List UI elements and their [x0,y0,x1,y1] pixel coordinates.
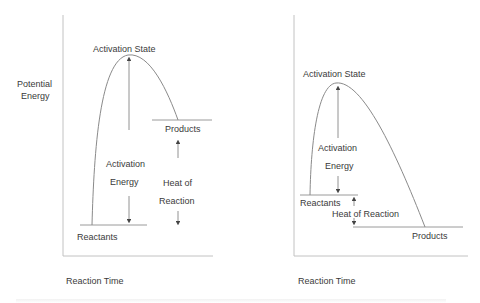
left-x-axis-label: Reaction Time [66,276,124,287]
figure-caption-clipped [16,299,446,303]
right-heat-label: Heat of Reaction [332,209,399,220]
left-y-axis-label-line2: Energy [21,91,50,102]
left-reactants-label: Reactants [77,232,118,243]
right-activation-label-line1: Activation [318,143,357,154]
right-activation-label-line2: Energy [325,161,354,172]
left-activation-label-line1: Activation [106,159,145,170]
energy-diagram-figure: Potential Energy Activation State Produc… [0,0,480,303]
left-heat-label-line1: Heat of [163,178,192,189]
right-reactants-label: Reactants [300,198,341,209]
left-activation-label-line2: Energy [110,177,139,188]
left-y-axis-label-line1: Potential [17,79,52,90]
right-x-axis-label: Reaction Time [298,276,356,287]
left-peak-label: Activation State [93,44,156,55]
right-peak-label: Activation State [303,69,366,80]
right-products-label: Products [412,231,448,242]
diagram-graphics [0,0,480,303]
left-products-label: Products [165,124,201,135]
left-heat-label-line2: Reaction [159,196,195,207]
